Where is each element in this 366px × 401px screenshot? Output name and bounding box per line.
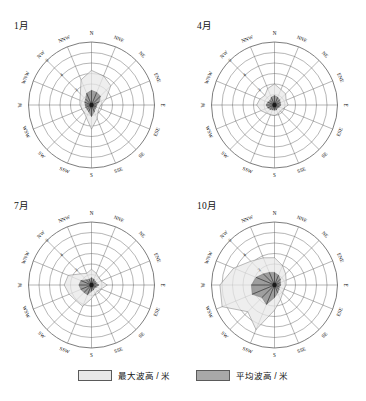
rose-chart-apr: 246NNNENEENEEESESESSESSSWSWWSWWWNWNWNNW [183, 6, 366, 192]
svg-text:WNW: WNW [20, 250, 31, 265]
legend-swatch-max [78, 370, 112, 381]
svg-text:WSW: WSW [205, 125, 215, 139]
legend: 最大波高 / 米 平均波高 / 米 [0, 362, 366, 388]
svg-text:ESE: ESE [152, 127, 161, 138]
panel-oct: 10月 246NNNENEENEEESESESSESSSWSWWSWWWNWNW… [183, 186, 366, 372]
svg-text:SW: SW [220, 330, 230, 340]
svg-text:W: W [17, 282, 23, 287]
svg-text:SSW: SSW [242, 345, 254, 355]
svg-text:NE: NE [321, 50, 330, 59]
svg-text:N: N [273, 30, 277, 36]
svg-text:E: E [343, 103, 349, 106]
svg-text:N: N [90, 210, 94, 216]
rose-chart-jul: 246NNNENEENEEESESESSESSSWSWWSWWWNWNWNNW [0, 186, 183, 372]
svg-text:WNW: WNW [20, 70, 31, 85]
wave-rose-figure: 1月 246NNNENEENEEESESESSESSSWSWWSWWWNWNWN… [0, 0, 366, 401]
svg-text:SE: SE [137, 330, 145, 338]
svg-text:N: N [273, 210, 277, 216]
svg-text:NNE: NNE [296, 214, 308, 224]
svg-text:S: S [273, 352, 276, 358]
legend-item-mean: 平均波高 / 米 [196, 369, 288, 381]
svg-text:SSE: SSE [113, 165, 123, 174]
svg-text:SE: SE [137, 150, 145, 158]
svg-text:ENE: ENE [153, 72, 162, 83]
svg-text:WNW: WNW [203, 70, 214, 85]
legend-label-mean: 平均波高 / 米 [236, 369, 288, 381]
svg-text:SSW: SSW [59, 165, 71, 175]
svg-text:ESE: ESE [335, 307, 344, 318]
svg-text:E: E [160, 103, 166, 106]
svg-text:WSW: WSW [205, 305, 215, 319]
svg-text:2: 2 [257, 87, 263, 93]
svg-text:NE: NE [138, 230, 147, 239]
svg-text:ESE: ESE [335, 127, 344, 138]
svg-text:W: W [200, 282, 206, 287]
svg-text:NNW: NNW [57, 33, 71, 43]
svg-text:E: E [160, 283, 166, 286]
legend-swatch-mean [196, 370, 230, 381]
svg-text:ENE: ENE [153, 252, 162, 263]
svg-text:2: 2 [74, 87, 80, 93]
svg-text:SSW: SSW [59, 345, 71, 355]
svg-text:4: 4 [59, 252, 65, 258]
svg-text:WNW: WNW [203, 250, 214, 265]
svg-text:NE: NE [321, 230, 330, 239]
svg-text:SSW: SSW [242, 165, 254, 175]
legend-item-max: 最大波高 / 米 [78, 369, 170, 381]
svg-text:NNE: NNE [113, 214, 125, 224]
svg-text:S: S [90, 172, 93, 178]
svg-text:SE: SE [320, 330, 328, 338]
svg-text:NNE: NNE [113, 34, 125, 44]
svg-text:ENE: ENE [336, 72, 345, 83]
svg-text:6: 6 [227, 57, 233, 63]
svg-text:SE: SE [320, 150, 328, 158]
rose-chart-oct: 246NNNENEENEEESESESSESSSWSWWSWWWNWNWNNW [183, 186, 366, 372]
svg-text:6: 6 [227, 237, 233, 243]
svg-text:NNE: NNE [296, 34, 308, 44]
svg-text:6: 6 [44, 237, 50, 243]
svg-text:NNW: NNW [240, 33, 254, 43]
svg-text:NNW: NNW [240, 213, 254, 223]
svg-text:S: S [90, 352, 93, 358]
svg-text:S: S [273, 172, 276, 178]
svg-text:NNW: NNW [57, 213, 71, 223]
svg-text:WSW: WSW [22, 305, 32, 319]
svg-text:ENE: ENE [336, 252, 345, 263]
svg-text:SSE: SSE [113, 345, 123, 354]
svg-text:4: 4 [242, 252, 248, 258]
svg-text:SSE: SSE [296, 345, 306, 354]
svg-text:2: 2 [74, 267, 80, 273]
svg-text:E: E [343, 283, 349, 286]
svg-text:SW: SW [37, 330, 47, 340]
rose-chart-jan: 246NNNENEENEEESESESSESSSWSWWSWWWNWNWNNW [0, 6, 183, 192]
svg-text:NE: NE [138, 50, 147, 59]
svg-text:SSE: SSE [296, 165, 306, 174]
svg-text:WSW: WSW [22, 125, 32, 139]
svg-text:ESE: ESE [152, 307, 161, 318]
svg-text:6: 6 [44, 57, 50, 63]
panel-jul: 7月 246NNNENEENEEESESESSESSSWSWWSWWWNWNWN… [0, 186, 183, 372]
svg-text:W: W [17, 102, 23, 107]
svg-text:SW: SW [220, 150, 230, 160]
legend-label-max: 最大波高 / 米 [118, 369, 170, 381]
panel-apr: 4月 246NNNENEENEEESESESSESSSWSWWSWWWNWNWN… [183, 6, 366, 192]
svg-text:4: 4 [59, 72, 65, 78]
panel-jan: 1月 246NNNENEENEEESESESSESSSWSWWSWWWNWNWN… [0, 6, 183, 192]
svg-text:N: N [90, 30, 94, 36]
svg-text:SW: SW [37, 150, 47, 160]
svg-text:W: W [200, 102, 206, 107]
svg-text:4: 4 [242, 72, 248, 78]
